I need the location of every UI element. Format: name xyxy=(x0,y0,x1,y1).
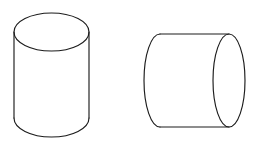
upright-cylinder-bottom-arc xyxy=(14,118,89,137)
cylinders-drawing xyxy=(0,0,263,149)
upright-cylinder-top-ellipse xyxy=(14,13,89,51)
figure-canvas: Two cylinders line drawing xyxy=(0,0,263,149)
lying-cylinder-right-ellipse xyxy=(213,34,245,127)
lying-cylinder-left-cap-arc xyxy=(144,34,160,127)
lying-cylinder xyxy=(144,34,245,127)
upright-cylinder xyxy=(14,13,89,137)
